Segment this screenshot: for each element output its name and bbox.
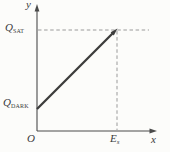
qualitative-line-graph: y x O QSAT QDARK Es	[0, 0, 170, 152]
y-axis-label: y	[26, 0, 31, 10]
qdark-label: QDARK	[3, 97, 29, 109]
y-axis-arrowhead	[35, 4, 40, 12]
qdark-label-main: Q	[3, 96, 11, 108]
graph-canvas	[0, 0, 170, 152]
response-line	[37, 33, 113, 109]
qsat-label: QSAT	[5, 22, 24, 34]
qsat-label-subscript: SAT	[13, 28, 24, 34]
es-label: Es	[110, 133, 119, 146]
x-axis-label: x	[151, 134, 156, 145]
qdark-label-subscript: DARK	[11, 103, 29, 109]
es-label-subscript: s	[117, 138, 120, 146]
origin-label: O	[27, 133, 35, 144]
qsat-label-main: Q	[5, 21, 13, 33]
es-label-main: E	[110, 132, 117, 144]
